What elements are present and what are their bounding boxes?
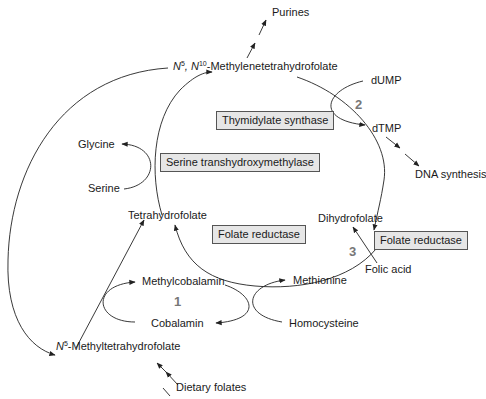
dihydrofolate-label: Dihydrofolate [318,212,383,225]
folate-cycle-diagram: Purines N5, N10-Methylenetetrahydrofolat… [0,0,486,399]
serine-label: Serine [88,182,120,195]
enzyme-serine-transhydroxymethylase: Serine transhydroxymethylase [160,153,320,172]
methyl-suffix: -Methyltetrahydrofolate [68,340,181,352]
n10-sup: 10 [199,60,207,67]
dna-synthesis-label: DNA synthesis [415,168,486,181]
tetrahydrofolate-label: Tetrahydrofolate [128,209,207,222]
methylcobalamin-label: Methylcobalamin [142,275,225,288]
folic-acid-label: Folic acid [365,263,411,276]
dump-label: dUMP [371,74,402,87]
step-number-1: 1 [174,294,181,309]
n5-prefix: N [56,340,64,352]
methyltetrahydrofolate-label: N5-Methyltetrahydrofolate [56,340,180,353]
enzyme-folate-reductase-outer: Folate reductase [374,231,468,250]
homocysteine-label: Homocysteine [289,317,359,330]
cobalamin-label: Cobalamin [151,317,204,330]
glycine-label: Glycine [78,138,115,151]
methylenetetrahydrofolate-label: N5, N10-Methylenetetrahydrofolate [173,60,338,73]
dtmp-label: dTMP [372,122,401,135]
dietary-folates-label: Dietary folates [176,381,246,394]
methionine-label: Methionine [293,274,347,287]
n10-mid: , N [185,60,199,72]
enzyme-thymidylate-synthase: Thymidylate synthase [216,111,334,130]
step-number-2: 2 [355,97,362,112]
purines-label: Purines [272,6,309,19]
methylene-suffix: -Methylenetetrahydrofolate [207,60,338,72]
enzyme-folate-reductase-inner: Folate reductase [212,225,306,244]
step-number-3: 3 [349,244,356,259]
n5-prefix: N [173,60,181,72]
